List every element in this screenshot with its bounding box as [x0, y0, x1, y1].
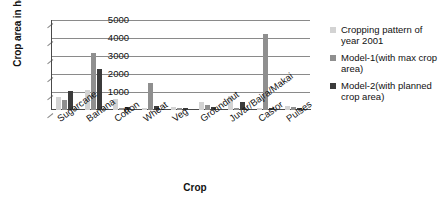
bar[interactable] — [257, 108, 262, 110]
x-axis-title: Crop — [150, 182, 240, 193]
bar-group — [167, 20, 196, 110]
legend-swatch-icon — [330, 55, 336, 61]
legend-label: Cropping pattern of year 2001 — [341, 24, 438, 46]
legend-item[interactable]: Model-1(with max crop area) — [330, 52, 438, 74]
bar-chart: Crop area in ha 500040003000200010000 Su… — [0, 0, 442, 202]
legend-item[interactable]: Cropping pattern of year 2001 — [330, 24, 438, 46]
bar[interactable] — [56, 97, 61, 110]
legend-swatch-icon — [330, 83, 336, 89]
y-tick-label: 3000 — [89, 50, 129, 61]
legend: Cropping pattern of year 2001 Model-1(wi… — [330, 24, 438, 108]
legend-label: Model-2(with planned crop area) — [341, 80, 438, 102]
y-tick-label: 2000 — [89, 68, 129, 79]
bar[interactable] — [199, 102, 204, 110]
bar-group — [138, 20, 167, 110]
y-tick-label: 5000 — [89, 14, 129, 25]
bar[interactable] — [171, 107, 176, 110]
bar-group — [195, 20, 224, 110]
bar-group — [281, 20, 310, 110]
legend-item[interactable]: Model-2(with planned crop area) — [330, 80, 438, 102]
axis-tick-mark — [47, 113, 53, 118]
y-axis-title: Crop area in ha — [12, 0, 26, 83]
y-tick-label: 4000 — [89, 32, 129, 43]
legend-swatch-icon — [330, 27, 336, 33]
legend-label: Model-1(with max crop area) — [341, 52, 438, 74]
bar-group — [52, 20, 81, 110]
